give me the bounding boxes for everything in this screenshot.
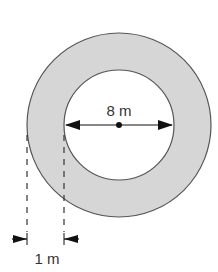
ring-width-label: 1 m	[34, 250, 59, 267]
annulus-diagram: 8 m 1 m	[0, 0, 218, 272]
inner-diameter-label: 8 m	[106, 102, 131, 119]
ring-width-arrows	[12, 233, 79, 245]
center-point	[116, 122, 122, 128]
